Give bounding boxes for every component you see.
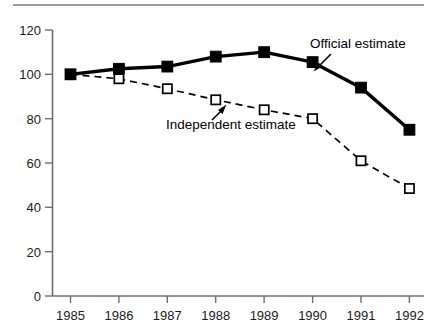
annotation-independent-estimate: Independent estimate xyxy=(166,105,296,133)
data-point-marker xyxy=(356,156,365,165)
x-tick-label-1988: 1988 xyxy=(201,308,230,323)
x-tick-label-1985: 1985 xyxy=(56,308,85,323)
line-chart-plot: 120 100 80 60 40 20 0 1985 1986 1987 198… xyxy=(0,0,435,333)
annotation-official-estimate: Official estimate xyxy=(310,36,406,72)
y-tick-label-0: 0 xyxy=(34,289,41,304)
x-tick-label-1991: 1991 xyxy=(347,308,376,323)
y-tick-label-40: 40 xyxy=(27,200,41,215)
data-point-marker xyxy=(308,114,317,123)
data-point-marker xyxy=(260,105,269,114)
y-axis xyxy=(45,30,53,296)
data-point-marker xyxy=(307,57,318,68)
y-tick-label-120: 120 xyxy=(19,23,41,38)
data-point-marker xyxy=(114,63,125,74)
data-point-marker xyxy=(211,95,220,104)
y-tick-label-60: 60 xyxy=(27,156,41,171)
data-point-marker xyxy=(210,51,221,62)
x-tick-label-1986: 1986 xyxy=(104,308,133,323)
x-axis-tick-labels: 1985 1986 1987 1988 1989 1990 1991 1992 xyxy=(56,308,424,323)
data-point-marker xyxy=(404,124,415,135)
annotation-official-estimate-label: Official estimate xyxy=(310,36,406,51)
y-axis-tick-labels: 120 100 80 60 40 20 0 xyxy=(19,23,41,304)
data-point-marker xyxy=(162,61,173,72)
y-tick-label-80: 80 xyxy=(27,112,41,127)
y-tick-label-20: 20 xyxy=(27,245,41,260)
x-axis xyxy=(53,296,425,303)
x-tick-label-1992: 1992 xyxy=(395,308,424,323)
annotation-independent-estimate-label: Independent estimate xyxy=(166,117,296,132)
data-point-marker xyxy=(356,82,367,93)
data-point-marker xyxy=(65,69,76,80)
x-tick-label-1989: 1989 xyxy=(250,308,279,323)
x-tick-label-1987: 1987 xyxy=(153,308,182,323)
data-point-marker xyxy=(163,84,172,93)
annotation-official-leader-line xyxy=(319,54,331,66)
chart-figure: 120 100 80 60 40 20 0 1985 1986 1987 198… xyxy=(0,0,435,333)
y-tick-label-100: 100 xyxy=(19,67,41,82)
data-point-marker xyxy=(114,74,123,83)
data-point-marker xyxy=(405,184,414,193)
x-tick-label-1990: 1990 xyxy=(298,308,327,323)
data-point-marker xyxy=(259,47,270,58)
